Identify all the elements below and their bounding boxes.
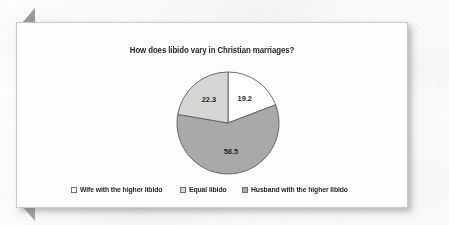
chart-legend: Wife with the higher libidoEqual libidoH…	[17, 185, 407, 194]
legend-item-label: Husband with the higher libido	[251, 185, 348, 194]
legend-item[interactable]: Husband with the higher libido	[242, 185, 354, 194]
chart-card: How does libido vary in Christian marria…	[16, 22, 408, 208]
legend-swatch-wife	[71, 187, 77, 193]
legend-item-label: Wife with the higher libido	[80, 185, 162, 194]
legend-item[interactable]: Equal libido	[180, 185, 229, 194]
scanned-page: How does libido vary in Christian marria…	[0, 0, 449, 225]
page-fold-bottom-left-icon	[22, 206, 35, 221]
chart-title: How does libido vary in Christian marria…	[25, 46, 399, 55]
pie-slice[interactable]	[178, 72, 228, 123]
pie-slice[interactable]	[177, 105, 279, 174]
pie-label-group: 19.258.522.3	[202, 94, 252, 157]
legend-swatch-equal	[180, 187, 186, 193]
legend-swatch-husband	[242, 187, 248, 193]
pie-slice[interactable]	[228, 72, 276, 123]
legend-item-label: Equal libido	[189, 185, 227, 194]
legend-item[interactable]: Wife with the higher libido	[71, 185, 167, 194]
pie-slice-label: 58.5	[224, 147, 238, 156]
pie-slice-label: 19.2	[238, 94, 252, 103]
pie-slice-label: 22.3	[202, 95, 216, 104]
page-fold-top-left-icon	[22, 8, 35, 23]
pie-slice-group	[177, 72, 279, 174]
